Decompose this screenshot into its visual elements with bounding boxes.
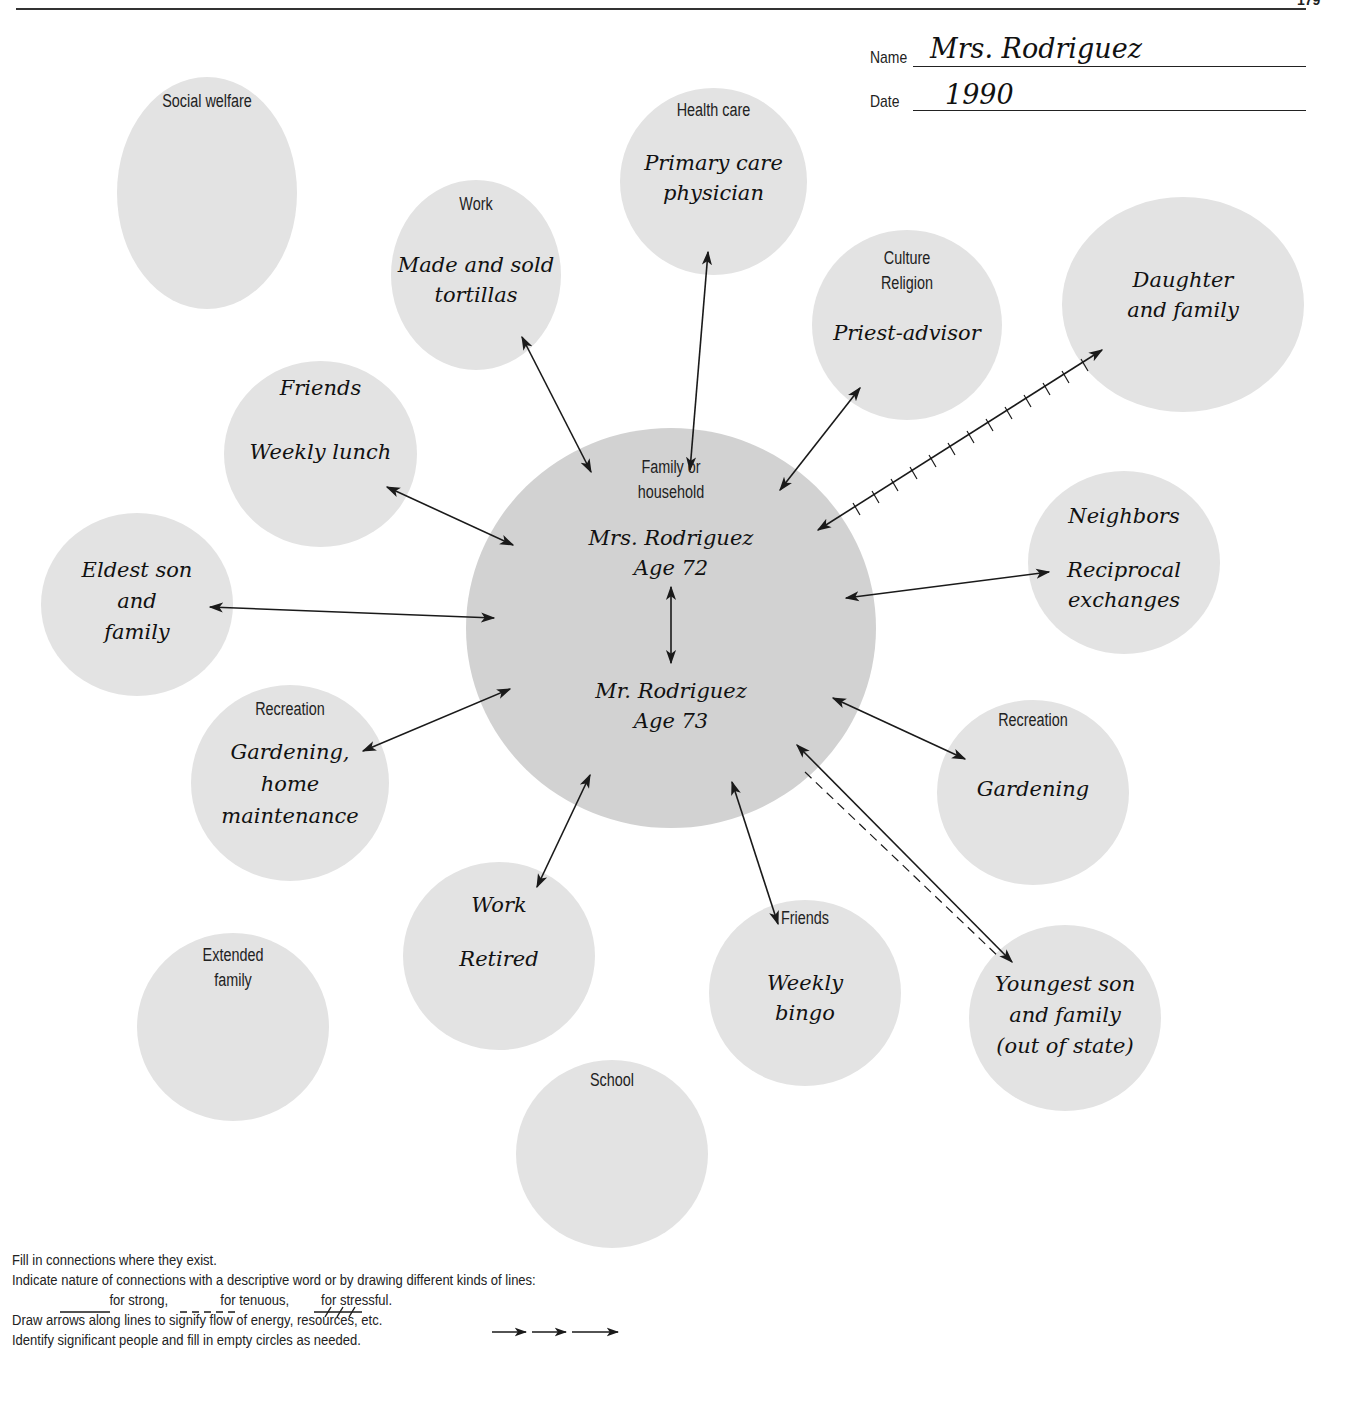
connection-health-care <box>690 252 708 470</box>
connection-neighbors <box>846 572 1049 598</box>
stressful-hatch-marks <box>853 359 1088 515</box>
connection-culture-religion <box>780 388 860 490</box>
legend-row: for strong, for tenuous, for stressful. <box>12 1290 600 1310</box>
instruction-line: Indicate nature of connections with a de… <box>12 1270 600 1290</box>
instructions: Fill in connections where they exist. In… <box>12 1250 712 1350</box>
instruction-line: Draw arrows along lines to signify flow … <box>12 1310 600 1330</box>
instruction-line: Fill in connections where they exist. <box>12 1250 600 1270</box>
connection-work-1 <box>522 337 591 472</box>
connection-recreation-2 <box>833 698 965 759</box>
connection-youngest-son <box>797 745 1012 962</box>
connection-work-2 <box>537 775 590 887</box>
connection-recreation-1 <box>363 689 510 751</box>
connection-friends-bingo <box>732 782 778 924</box>
instruction-line: Identify significant people and fill in … <box>12 1330 600 1350</box>
connection-youngest-son-tenuous <box>805 772 1000 958</box>
connection-eldest-son <box>210 607 494 618</box>
connection-daughter-stressful <box>818 350 1102 530</box>
connections-layer <box>0 0 1350 1402</box>
legend-stressful-label: for stressful. <box>321 1290 392 1310</box>
legend-tenuous-label: for tenuous, <box>220 1290 289 1310</box>
connection-friends-lunch <box>387 487 513 545</box>
legend-strong-label: for strong, <box>109 1290 168 1310</box>
